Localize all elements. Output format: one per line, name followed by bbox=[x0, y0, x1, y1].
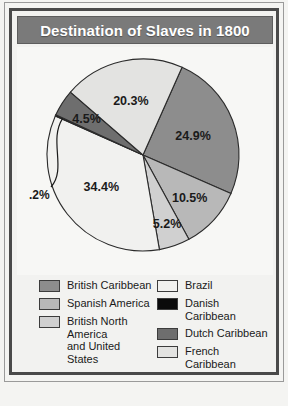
pie-slice-label: 5.2% bbox=[153, 217, 182, 231]
legend-column-left: British CaribbeanSpanish AmericaBritish … bbox=[17, 279, 153, 369]
legend-item-label: British Caribbean bbox=[67, 279, 151, 292]
pie-slice-label: 24.9% bbox=[175, 129, 210, 143]
page-title: Destination of Slaves in 1800 bbox=[40, 22, 250, 39]
legend-column-right: BrazilDanish CaribbeanDutch CaribbeanFre… bbox=[153, 279, 273, 369]
pie-slice-label: 20.3% bbox=[113, 94, 148, 108]
legend-swatch bbox=[39, 316, 60, 328]
legend-item: Spanish America bbox=[39, 297, 153, 310]
legend-swatch bbox=[39, 280, 60, 292]
pie-slice-label: 10.5% bbox=[172, 191, 207, 205]
chart-legend: British CaribbeanSpanish AmericaBritish … bbox=[17, 279, 273, 369]
pie-slice-label: 4.5% bbox=[72, 112, 101, 126]
pie-slices-group bbox=[47, 59, 239, 251]
legend-item-label: French Caribbean bbox=[185, 345, 273, 370]
legend-swatch bbox=[157, 328, 178, 340]
pie-chart-svg: .2% 24.9%10.5%5.2%34.4%4.5%20.3% bbox=[17, 47, 273, 275]
legend-item: British Caribbean bbox=[39, 279, 153, 292]
legend-item: British North America and United States bbox=[39, 315, 153, 365]
legend-swatch bbox=[39, 298, 60, 310]
legend-item-label: Brazil bbox=[185, 279, 213, 292]
legend-item-label: Dutch Caribbean bbox=[185, 327, 268, 340]
legend-item: French Caribbean bbox=[157, 345, 273, 370]
chart-title-bar: Destination of Slaves in 1800 bbox=[17, 16, 273, 44]
legend-item-label: Danish Caribbean bbox=[185, 297, 273, 322]
pie-chart-plot-area: .2% 24.9%10.5%5.2%34.4%4.5%20.3% bbox=[17, 47, 273, 275]
legend-swatch bbox=[157, 280, 178, 292]
pie-slice-callout-label: .2% bbox=[29, 188, 50, 202]
chart-card: Destination of Slaves in 1800 .2% 24.9%1… bbox=[9, 8, 279, 375]
legend-swatch bbox=[157, 298, 178, 310]
legend-item: Danish Caribbean bbox=[157, 297, 273, 322]
legend-item-label: British North America and United States bbox=[67, 315, 153, 365]
legend-item-label: Spanish America bbox=[67, 297, 150, 310]
legend-item: Dutch Caribbean bbox=[157, 327, 273, 340]
legend-item: Brazil bbox=[157, 279, 273, 292]
legend-swatch bbox=[157, 346, 178, 358]
page-root: Destination of Slaves in 1800 .2% 24.9%1… bbox=[0, 0, 288, 406]
pie-slice-label: 34.4% bbox=[84, 180, 119, 194]
